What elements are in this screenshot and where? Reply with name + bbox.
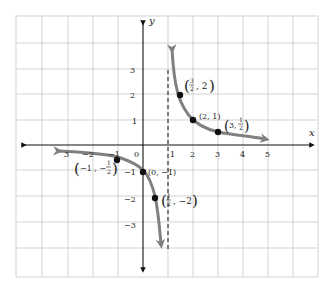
y-tick: 3 bbox=[130, 66, 135, 75]
svg-text:): ) bbox=[192, 192, 198, 210]
x-tick: 1 bbox=[170, 150, 175, 159]
point-half-neg2 bbox=[152, 195, 158, 201]
label-2-1: (2, 1) bbox=[199, 112, 221, 121]
svg-text:1: 1 bbox=[167, 192, 171, 199]
label-3-half: ( 3, 12 ) bbox=[224, 116, 249, 134]
svg-text:−1 , −: −1 , − bbox=[80, 164, 106, 173]
svg-text:, −2: , −2 bbox=[173, 196, 192, 206]
svg-text:): ) bbox=[244, 118, 249, 134]
svg-text:(: ( bbox=[74, 160, 80, 178]
x-tick: 3 bbox=[64, 150, 69, 159]
x-tick: 3 bbox=[215, 150, 220, 159]
point-2-1 bbox=[190, 117, 196, 123]
label-3-2-2: ( 32 , 2 ) bbox=[184, 77, 215, 95]
svg-text:2: 2 bbox=[107, 168, 111, 175]
y-tick: −2 bbox=[124, 195, 136, 204]
y-tick: −1 bbox=[124, 168, 136, 177]
svg-text:(: ( bbox=[184, 77, 190, 95]
svg-text:2: 2 bbox=[167, 200, 171, 207]
y-tick: 1 bbox=[132, 117, 137, 126]
point-0-neg1 bbox=[140, 169, 146, 175]
svg-text:3,: 3, bbox=[229, 121, 237, 130]
x-tick: 4 bbox=[240, 150, 245, 159]
y-axis-label: y bbox=[148, 15, 155, 26]
label-half-neg2: ( 12 , −2 ) bbox=[161, 192, 198, 210]
svg-text:2: 2 bbox=[239, 124, 243, 131]
svg-text:, 2: , 2 bbox=[196, 81, 207, 91]
svg-text:): ) bbox=[112, 160, 118, 178]
svg-text:1: 1 bbox=[239, 116, 243, 123]
svg-text:2: 2 bbox=[190, 85, 194, 92]
x-axis-label: x bbox=[309, 127, 315, 138]
label-neg1-neghalf: ( −1 , − 12 ) bbox=[74, 159, 118, 178]
x-tick: 2 bbox=[190, 150, 195, 159]
x-tick: −1 bbox=[108, 150, 120, 159]
x-tick: 0 bbox=[134, 150, 139, 159]
label-0-neg1: (0, −1) bbox=[148, 168, 176, 177]
svg-text:3: 3 bbox=[190, 77, 194, 84]
svg-text:): ) bbox=[209, 77, 215, 95]
svg-text:1: 1 bbox=[107, 159, 111, 166]
x-tick: −2 bbox=[82, 150, 94, 159]
graph: y x 3 −2 −1 0 1 2 3 4 5 3 2 1 −1 −2 −3 (… bbox=[0, 0, 333, 292]
svg-text:(: ( bbox=[161, 192, 167, 210]
y-tick: 2 bbox=[130, 91, 135, 100]
x-tick: 5 bbox=[265, 150, 270, 159]
grid bbox=[16, 16, 318, 277]
point-3-2-2 bbox=[177, 92, 183, 98]
point-3-half bbox=[215, 129, 221, 135]
y-tick: −3 bbox=[124, 221, 136, 230]
